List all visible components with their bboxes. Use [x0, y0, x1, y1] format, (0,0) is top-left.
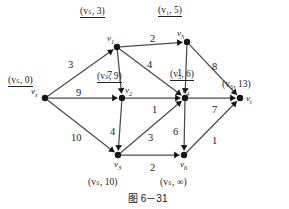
graph-edge — [118, 101, 121, 150]
graph-edge — [48, 100, 115, 152]
node-tag-v6: (vₛ, ∞) — [160, 178, 187, 188]
edge-arrowhead — [181, 145, 188, 150]
edge-weight-label: 10 — [71, 133, 82, 144]
edge-weight-label: 3 — [148, 133, 153, 144]
graph-node-v3[interactable] — [115, 152, 121, 158]
node-name-v5: v5 — [177, 29, 184, 40]
edge-weight-label: 4 — [110, 127, 115, 138]
edge-weight-label: 1 — [152, 105, 157, 116]
node-tag-v3: (vₛ, 10) — [88, 178, 117, 188]
node-name-text: vt — [246, 93, 252, 103]
edge-arrowhead — [174, 152, 179, 159]
node-name-v3: v3 — [114, 160, 121, 171]
graph-node-v5[interactable] — [184, 39, 190, 45]
node-name-text: v1 — [107, 33, 114, 43]
graph-node-v6[interactable] — [181, 152, 187, 158]
node-tag-v2: (vₛ, 9) — [97, 72, 122, 83]
node-tag-vt: (v₅, 13) — [222, 80, 251, 90]
node-name-text: v2 — [125, 85, 132, 95]
edge-arrowhead — [107, 50, 113, 56]
graph-edge — [184, 101, 185, 150]
edge-arrowhead — [118, 88, 125, 94]
edge-weight-label: 8 — [212, 62, 217, 73]
edge-weight-label: 4 — [147, 60, 152, 71]
edge-arrowhead — [175, 89, 181, 95]
node-name-v2: v2 — [125, 86, 132, 97]
edge-arrowhead — [115, 145, 122, 151]
node-name-text: v3 — [114, 159, 121, 169]
edge-weight-label: 1 — [212, 136, 217, 147]
node-name-text: v4 — [182, 85, 189, 95]
graph-node-vs[interactable] — [42, 95, 48, 101]
graph-node-vt[interactable] — [237, 95, 243, 101]
node-name-vt: vt — [246, 94, 252, 105]
figure-container: 3910274181432761vs(vₛ, 0)v1(vₛ, 3)v5(v₁,… — [0, 0, 289, 209]
node-name-text: v5 — [177, 28, 184, 38]
figure-caption: 图 6－31 — [128, 190, 167, 205]
edge-weight-label: 9 — [76, 88, 81, 99]
edge-weight-label: 6 — [173, 127, 178, 138]
graph-node-v1[interactable] — [114, 44, 120, 50]
node-name-vs: vs — [31, 87, 38, 98]
edge-arrowhead — [112, 95, 117, 102]
node-name-text: vs — [31, 86, 38, 96]
node-tag-vs: (vₛ, 0) — [8, 76, 33, 87]
edge-arrowhead — [230, 95, 235, 102]
node-name-v1: v1 — [107, 34, 114, 45]
node-tag-v5: (v₁, 5) — [158, 6, 182, 17]
edge-arrowhead — [177, 39, 183, 46]
node-name-v6: v6 — [180, 160, 187, 171]
edge-arrowhead — [175, 95, 180, 102]
edge-weight-label: 2 — [150, 163, 155, 174]
edge-weight-label: 7 — [212, 105, 217, 116]
node-name-text: v6 — [180, 159, 187, 169]
edge-weight-label: 2 — [150, 34, 155, 45]
edge-weight-label: 3 — [68, 60, 73, 71]
node-tag-v4: (v₅, 6) — [170, 70, 194, 81]
edge-arrowhead — [108, 146, 114, 152]
node-name-v4: v4 — [182, 86, 189, 97]
node-tag-v1: (vₛ, 3) — [80, 7, 105, 18]
